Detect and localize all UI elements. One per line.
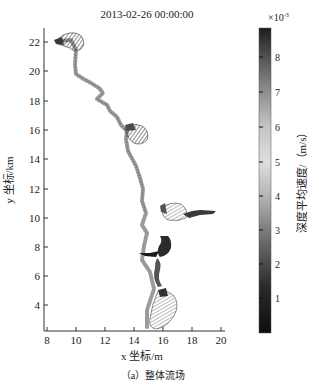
colorbar-exponent-base: ×10 <box>268 12 284 23</box>
flow-blob-10 <box>160 203 216 221</box>
svg-text:1: 1 <box>275 293 280 304</box>
svg-text:14: 14 <box>29 153 41 165</box>
svg-text:20: 20 <box>216 334 228 346</box>
svg-text:5: 5 <box>275 157 280 168</box>
colorbar: 8 7 6 5 4 3 2 1 <box>259 28 280 333</box>
x-axis-ticks: 8 10 12 14 16 18 20 <box>44 327 227 346</box>
x-axis-label: x 坐标/m <box>82 347 202 363</box>
y-axis-label-text: y 坐标/km <box>0 156 16 203</box>
flow-blob-16 <box>125 123 148 144</box>
river-vector-field <box>54 33 216 329</box>
colorbar-exponent: ×10-3 <box>268 12 289 23</box>
flow-field-figure: 22 20 18 16 14 12 10 8 6 4 8 10 12 14 16… <box>0 0 319 388</box>
svg-text:22: 22 <box>29 36 40 48</box>
svg-text:4: 4 <box>35 299 41 311</box>
svg-text:3: 3 <box>275 225 280 236</box>
flow-blob-upper <box>54 33 84 51</box>
svg-text:16: 16 <box>29 124 41 136</box>
y-axis-ticks: 22 20 18 16 14 12 10 8 6 4 <box>29 36 48 311</box>
svg-text:18: 18 <box>29 95 41 107</box>
river-centerline <box>60 40 154 327</box>
figure-caption: （a）整体流场 <box>88 367 218 382</box>
svg-text:4: 4 <box>275 191 280 202</box>
svg-text:20: 20 <box>29 65 41 77</box>
svg-text:12: 12 <box>29 183 40 195</box>
svg-text:6: 6 <box>275 122 280 133</box>
svg-text:8: 8 <box>35 241 41 253</box>
svg-text:12: 12 <box>100 334 111 346</box>
svg-text:8: 8 <box>275 52 280 63</box>
axes <box>44 28 225 331</box>
svg-text:14: 14 <box>129 334 141 346</box>
svg-text:18: 18 <box>187 334 199 346</box>
svg-text:8: 8 <box>44 334 50 346</box>
svg-text:2: 2 <box>275 259 280 270</box>
svg-text:6: 6 <box>35 270 41 282</box>
colorbar-label-text: 深度平均速度/（m/s） <box>293 127 309 234</box>
svg-text:7: 7 <box>275 87 280 98</box>
svg-text:16: 16 <box>158 334 170 346</box>
colorbar-exponent-power: -3 <box>284 12 289 18</box>
svg-text:10: 10 <box>29 212 41 224</box>
chart-title: 2013-02-26 00:00:00 <box>22 8 272 20</box>
svg-text:10: 10 <box>71 334 83 346</box>
